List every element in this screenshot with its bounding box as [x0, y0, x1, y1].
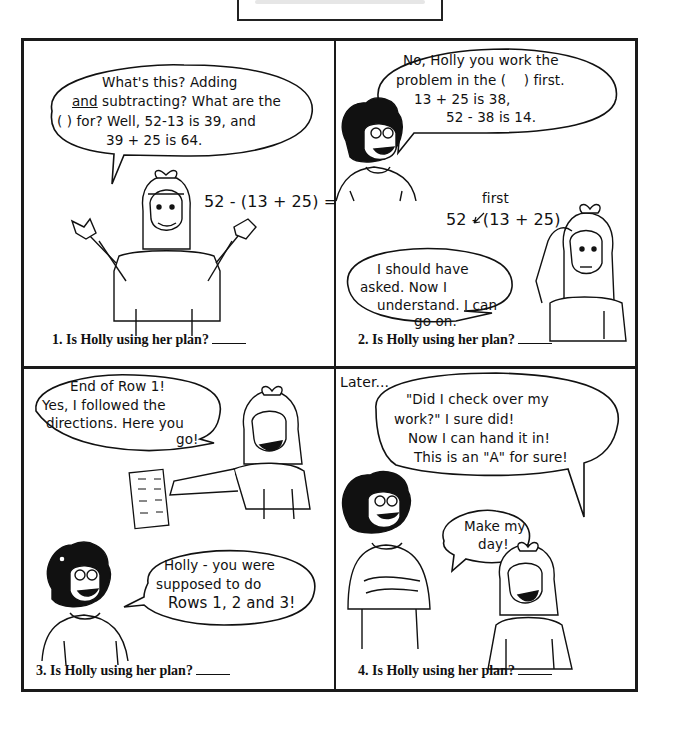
bubble-line: problem in the ( ) first. — [396, 72, 565, 89]
caption-later: Later... — [340, 374, 389, 391]
bubble-line: go on. — [414, 313, 457, 330]
board-expression: 52 - (13 + 25) — [446, 211, 561, 228]
bubble-line: understand. I can — [377, 297, 497, 314]
bubble-line: go! — [176, 431, 199, 448]
bubble-line: Make my — [464, 518, 526, 535]
question-text: 1. Is Holly using her plan? — [52, 332, 209, 347]
answer-blank[interactable] — [196, 673, 230, 675]
question-text: 2. Is Holly using her plan? — [358, 332, 515, 347]
bubble-line: ( ) for? Well, 52-13 is 39, and — [57, 113, 256, 130]
bubble-line: supposed to do — [156, 576, 261, 593]
worksheet-paper — [129, 469, 169, 528]
bubble-line: "Did I check over my — [406, 391, 549, 408]
question-3: 3. Is Holly using her plan? — [36, 663, 230, 679]
panel-2: No, Holly you work the problem in the ( … — [336, 41, 635, 366]
answer-blank[interactable] — [518, 342, 552, 344]
question-4: 4. Is Holly using her plan? — [358, 663, 552, 679]
bubble-line: End of Row 1! — [70, 378, 165, 395]
question-2: 2. Is Holly using her plan? — [358, 332, 552, 348]
bubble-line: day! — [478, 536, 509, 553]
holly-figure — [488, 543, 572, 669]
bubble-line: 52 - 38 is 14. — [446, 109, 536, 126]
bubble-line: and subtracting? What are the — [72, 93, 281, 110]
bubble-line: directions. Here you — [46, 415, 184, 432]
underlined-word: and — [72, 93, 98, 109]
answer-blank[interactable] — [518, 673, 552, 675]
bubble-line: What's this? Adding — [102, 74, 238, 91]
teacher-figure — [343, 472, 430, 649]
annotation-first: first — [482, 190, 509, 207]
bubble-line: No, Holly you work the — [403, 52, 559, 69]
question-text: 3. Is Holly using her plan? — [36, 663, 193, 678]
bubble-line: 13 + 25 is 38, — [414, 91, 511, 108]
bubble-line: work?" I sure did! — [394, 411, 514, 428]
comic-strip: What's this? Adding and subtracting? Wha… — [21, 38, 638, 692]
board-expression: 52 - (13 + 25) = — [204, 193, 337, 210]
question-1: 1. Is Holly using her plan? — [52, 332, 246, 348]
bubble-line: Yes, I followed the — [42, 397, 166, 414]
bubble-line: Holly - you were — [164, 557, 275, 574]
panel-1: What's this? Adding and subtracting? Wha… — [24, 41, 334, 366]
teacher-figure — [42, 542, 128, 665]
header-faint-text — [255, 0, 425, 4]
panel-3: End of Row 1! Yes, I followed the direct… — [24, 369, 334, 689]
bubble-line: asked. Now I — [360, 279, 447, 296]
bubble-line: Rows 1, 2 and 3! — [168, 595, 295, 612]
bubble-line: Now I can hand it in! — [408, 430, 550, 447]
answer-blank[interactable] — [212, 342, 246, 344]
bubble-line: I should have — [377, 261, 469, 278]
bubble-line: This is an "A" for sure! — [414, 449, 568, 466]
panel-4: Later... "Did I check over my work?" I s… — [336, 369, 635, 689]
bubble-line: 39 + 25 is 64. — [106, 132, 203, 149]
header-strip — [237, 0, 443, 21]
question-text: 4. Is Holly using her plan? — [358, 663, 515, 678]
